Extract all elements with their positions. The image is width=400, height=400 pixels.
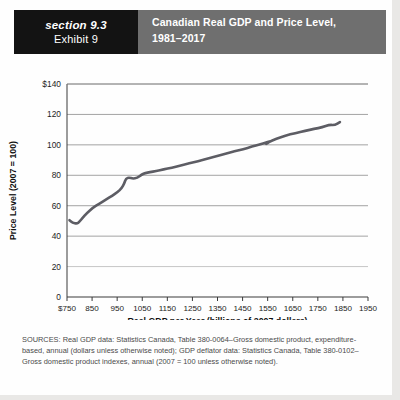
ytick-label-80: 80 xyxy=(52,170,62,180)
xtick-label-750: $750 xyxy=(58,304,77,313)
xtick-label-1450: 1450 xyxy=(234,304,253,313)
ytick-label-40: 40 xyxy=(52,231,62,241)
page-edge-bottom xyxy=(0,395,400,400)
data-curve xyxy=(70,122,340,223)
exhibit-number: Exhibit 9 xyxy=(54,32,98,47)
chart-container: 020406080100120$140$75085095010501150125… xyxy=(0,58,400,320)
ytick-label-20: 20 xyxy=(52,262,62,272)
exhibit-header: section 9.3 Exhibit 9 Canadian Real GDP … xyxy=(14,10,386,54)
xtick-label-1350: 1350 xyxy=(208,304,227,313)
exhibit-title-bar: Canadian Real GDP and Price Level, 1981–… xyxy=(138,10,386,54)
y-axis-title: Price Level (2007 = 100) xyxy=(8,141,18,240)
sources-note: SOURCES: Real GDP data: Statistics Canad… xyxy=(22,334,378,368)
ytick-label-140: $140 xyxy=(42,79,61,89)
exhibit-page: section 9.3 Exhibit 9 Canadian Real GDP … xyxy=(0,0,400,400)
exhibit-title-line-1: Canadian Real GDP and Price Level, xyxy=(152,15,386,31)
ytick-label-120: 120 xyxy=(47,109,61,119)
ytick-label-100: 100 xyxy=(47,140,61,150)
xtick-label-950: 950 xyxy=(110,304,124,313)
xtick-label-1850: 1850 xyxy=(334,304,353,313)
xtick-label-1250: 1250 xyxy=(183,304,202,313)
xtick-label-1550: 1550 xyxy=(259,304,278,313)
xtick-label-1150: 1150 xyxy=(159,304,177,313)
xtick-label-1050: 1050 xyxy=(133,304,152,313)
xtick-label-1750: 1750 xyxy=(309,304,328,313)
ytick-label-0: 0 xyxy=(56,292,61,302)
section-number: section 9.3 xyxy=(45,18,107,32)
line-chart: 020406080100120$140$75085095010501150125… xyxy=(0,58,400,320)
xtick-label-1950: 1950 xyxy=(359,304,378,313)
x-axis-title: Real GDP per Year (billions of 2007 doll… xyxy=(127,316,307,320)
section-badge: section 9.3 Exhibit 9 xyxy=(14,10,138,54)
xtick-label-1650: 1650 xyxy=(284,304,303,313)
exhibit-title-line-2: 1981–2017 xyxy=(152,31,386,47)
page-edge-right xyxy=(392,0,400,400)
ytick-label-60: 60 xyxy=(52,201,62,211)
xtick-label-850: 850 xyxy=(85,304,99,313)
